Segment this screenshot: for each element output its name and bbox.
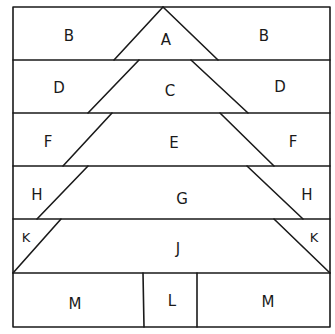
piece-c-left-edge	[88, 60, 139, 113]
label-f-right: F	[289, 133, 298, 151]
quilt-tree-diagram: B A B D C D F E F H G H K J K M L M	[0, 0, 335, 334]
piece-a-left-edge	[114, 7, 163, 60]
label-h-right: H	[301, 186, 312, 204]
label-k-left: K	[22, 230, 31, 245]
label-h-left: H	[31, 186, 42, 204]
label-e: E	[169, 134, 178, 152]
label-b-left: B	[64, 27, 74, 45]
piece-e-left-edge	[63, 113, 112, 166]
label-j: J	[175, 240, 180, 258]
label-a: A	[161, 31, 172, 49]
piece-e-right-edge	[220, 113, 274, 166]
label-k-right: K	[310, 230, 319, 245]
label-g: G	[176, 190, 188, 208]
piece-j-right-edge	[274, 219, 330, 273]
label-l: L	[168, 292, 177, 310]
label-m-left: M	[69, 295, 82, 313]
piece-a-right-edge	[163, 7, 218, 60]
label-f-left: F	[44, 133, 53, 151]
trunk-left-edge	[143, 273, 144, 327]
piece-j-left-edge	[13, 219, 61, 273]
label-b-right: B	[259, 27, 269, 45]
piece-c-right-edge	[191, 60, 248, 113]
piece-g-right-edge	[247, 166, 303, 219]
label-d-right: D	[274, 78, 286, 96]
outer-frame	[13, 7, 330, 327]
piece-g-left-edge	[37, 166, 88, 219]
label-m-right: M	[262, 293, 275, 311]
label-d-left: D	[53, 79, 65, 97]
label-c: C	[165, 82, 175, 100]
